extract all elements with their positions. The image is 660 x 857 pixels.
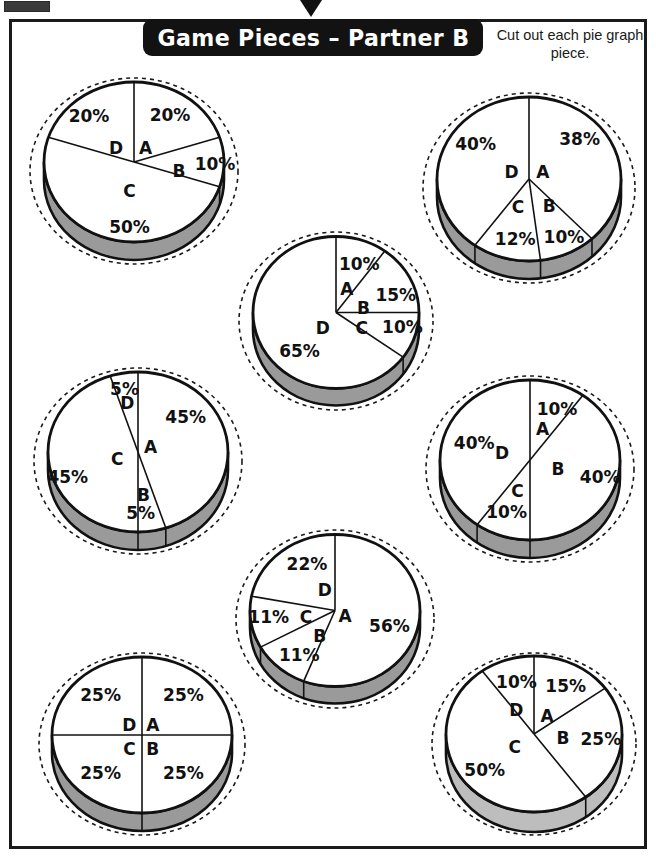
slice-letter-label: D [109, 138, 123, 158]
slice-percentage-label: 12% [495, 229, 536, 249]
slice-letter-label: D [509, 700, 523, 720]
pie-graph-card[interactable]: 56%11%11%22%ABCD [232, 528, 438, 710]
slice-letter-label: C [123, 181, 135, 201]
slice-percentage-label: 10% [382, 317, 423, 337]
slice-percentage-label: 11% [279, 645, 320, 665]
slice-percentage-label: 20% [69, 106, 110, 126]
slice-letter-label: D [316, 318, 330, 338]
slice-letter-label: D [318, 580, 332, 600]
page-pointer-tab-icon [300, 0, 322, 17]
slice-letter-label: C [123, 739, 135, 759]
slice-letter-label: A [541, 706, 555, 726]
slice-letter-label: A [340, 279, 354, 299]
slice-percentage-label: 22% [287, 554, 328, 574]
slice-percentage-label: 10% [486, 502, 527, 522]
pie-graph-card[interactable]: 10%40%10%40%ABCD [418, 372, 642, 566]
slice-percentage-label: 25% [80, 763, 121, 783]
slice-letter-label: C [111, 449, 123, 469]
slice-percentage-label: 50% [464, 760, 505, 780]
slice-percentage-label: 38% [559, 129, 600, 149]
slice-letter-label: B [357, 298, 370, 318]
header-banner: Game Pieces – Partner B [143, 19, 483, 56]
slice-letter-label: A [144, 437, 158, 457]
slice-letter-label: A [139, 138, 153, 158]
slice-percentage-label: 40% [454, 433, 495, 453]
slice-percentage-label: 25% [163, 685, 204, 705]
pie-graph-card[interactable]: 20%10%50%20%ABCD [22, 72, 246, 270]
slice-letter-label: D [120, 393, 134, 413]
slice-percentage-label: 10% [339, 254, 380, 274]
slice-letter-label: A [536, 419, 550, 439]
pie-graph-card[interactable]: 38%10%12%40%ABCD [415, 88, 643, 288]
slice-letter-label: B [137, 485, 150, 505]
pie-graph-card[interactable]: 15%25%50%10%ABCD [424, 645, 644, 843]
slice-letter-label: D [495, 443, 509, 463]
registration-mark [4, 1, 50, 12]
slice-letter-label: B [146, 739, 159, 759]
slice-letter-label: C [300, 607, 312, 627]
slice-percentage-label: 45% [47, 467, 88, 487]
slice-percentage-label: 50% [109, 217, 150, 237]
slice-letter-label: D [122, 715, 136, 735]
slice-letter-label: A [536, 162, 550, 182]
slice-percentage-label: 15% [375, 285, 416, 305]
slice-letter-label: C [508, 737, 520, 757]
slice-percentage-label: 5% [126, 503, 155, 523]
page-title: Game Pieces – Partner B [157, 25, 469, 51]
slice-percentage-label: 65% [279, 341, 320, 361]
slice-percentage-label: 20% [150, 105, 191, 125]
slice-letter-label: C [355, 318, 367, 338]
slice-letter-label: D [504, 162, 518, 182]
slice-percentage-label: 25% [80, 685, 121, 705]
pie-graph-card[interactable]: 10%15%10%65%ABCD [233, 228, 439, 414]
slice-letter-label: C [512, 197, 524, 217]
slice-percentage-label: 10% [195, 154, 236, 174]
slice-letter-label: B [173, 161, 186, 181]
slice-percentage-label: 56% [369, 616, 410, 636]
slice-letter-label: B [557, 728, 570, 748]
slice-percentage-label: 10% [496, 672, 537, 692]
slice-percentage-label: 25% [581, 729, 622, 749]
slice-percentage-label: 40% [455, 134, 496, 154]
slice-percentage-label: 11% [248, 607, 289, 627]
pie-graph-card[interactable]: 45%5%45%5%ABCD [26, 362, 250, 560]
pie-graph-card[interactable]: 25%25%25%25%ABCD [32, 646, 252, 842]
slice-percentage-label: 40% [580, 467, 621, 487]
slice-letter-label: C [511, 481, 523, 501]
slice-letter-label: B [313, 626, 326, 646]
slice-percentage-label: 15% [545, 676, 586, 696]
slice-percentage-label: 10% [537, 399, 578, 419]
slice-percentage-label: 45% [165, 407, 206, 427]
slice-letter-label: A [146, 715, 160, 735]
slice-percentage-label: 25% [163, 763, 204, 783]
slice-letter-label: B [551, 459, 564, 479]
slice-letter-label: A [339, 606, 353, 626]
slice-letter-label: B [543, 196, 556, 216]
instructions-text: Cut out each pie graph piece. [489, 26, 651, 62]
slice-percentage-label: 10% [544, 227, 585, 247]
